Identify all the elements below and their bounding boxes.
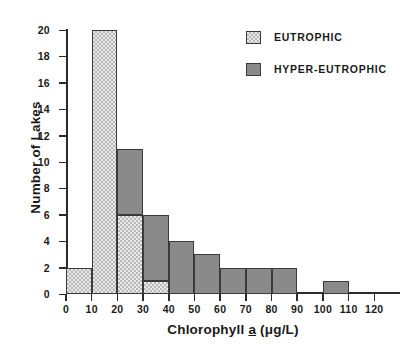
legend-label-hyper-eutrophic: HYPER-EUTROPHIC <box>274 63 387 75</box>
bar-segment <box>143 281 169 294</box>
x-tick-label: 90 <box>284 303 310 315</box>
x-axis-title: Chlorophyll a (μg/L) <box>66 322 400 337</box>
y-tick-label: 20 <box>30 25 50 35</box>
legend-item-eutrophic: EUTROPHIC <box>246 26 387 48</box>
x-tick-label: 80 <box>259 303 285 315</box>
bar-segment <box>194 254 220 294</box>
y-tick-label: 2 <box>30 263 50 273</box>
x-tick-label: 40 <box>156 303 182 315</box>
legend-label-eutrophic: EUTROPHIC <box>274 31 343 43</box>
x-tick-label: 20 <box>104 303 130 315</box>
x-tick-mark <box>348 294 350 301</box>
x-tick-mark <box>296 294 298 301</box>
x-tick-label: 0 <box>53 303 79 315</box>
x-tick-mark <box>374 294 376 301</box>
x-tick-mark <box>142 294 144 301</box>
x-tick-label: 70 <box>233 303 259 315</box>
x-tick-label: 30 <box>130 303 156 315</box>
x-tick-label: 10 <box>79 303 105 315</box>
x-tick-mark <box>245 294 247 301</box>
histogram-figure: 02468101214161820 0102030405060708090100… <box>0 0 417 364</box>
bar-segment <box>220 268 246 294</box>
x-tick-mark <box>322 294 324 301</box>
bar-segment <box>92 30 118 294</box>
x-tick-mark <box>168 294 170 301</box>
bar-segment <box>272 268 298 294</box>
x-tick-mark <box>194 294 196 301</box>
bar-segment <box>323 281 349 294</box>
bar-segment <box>117 215 143 294</box>
x-tick-mark <box>65 294 67 301</box>
legend: EUTROPHIC HYPER-EUTROPHIC <box>246 26 387 90</box>
y-tick-label: 0 <box>30 289 50 299</box>
y-tick-label: 18 <box>30 51 50 61</box>
bar-segment <box>143 215 169 281</box>
hyper-eutrophic-swatch-icon <box>246 63 261 76</box>
figure-caption <box>38 356 380 364</box>
x-tick-mark <box>271 294 273 301</box>
x-tick-label: 120 <box>361 303 387 315</box>
y-axis-title: Number of Lakes <box>28 68 43 248</box>
x-tick-label: 60 <box>207 303 233 315</box>
bar-segment <box>246 268 272 294</box>
eutrophic-swatch-icon <box>246 31 261 44</box>
x-axis-title-suffix: (μg/L) <box>256 322 299 337</box>
x-tick-mark <box>219 294 221 301</box>
x-tick-label: 100 <box>310 303 336 315</box>
bar-segment <box>66 268 92 294</box>
x-axis-title-variable: a <box>248 322 256 337</box>
x-tick-label: 110 <box>336 303 362 315</box>
x-axis-title-prefix: Chlorophyll <box>167 322 248 337</box>
x-tick-mark <box>91 294 93 301</box>
legend-item-hyper-eutrophic: HYPER-EUTROPHIC <box>246 58 387 80</box>
bar-segment <box>117 149 143 215</box>
x-tick-label: 50 <box>181 303 207 315</box>
bar-segment <box>169 241 195 294</box>
x-tick-mark <box>117 294 119 301</box>
